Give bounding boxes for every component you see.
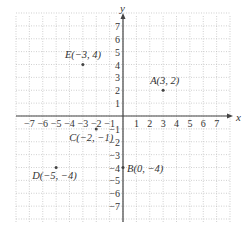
x-axis-label: x xyxy=(235,111,241,123)
y-tick-label: 3 xyxy=(115,72,120,83)
y-tick-label: 4 xyxy=(115,60,120,71)
y-tick-label: 1 xyxy=(115,98,120,109)
point-label-C: C(−2, −1) xyxy=(69,132,113,144)
x-tick-label: −2 xyxy=(91,118,102,129)
x-tick-label: −5 xyxy=(51,118,62,129)
y-tick-label: −6 xyxy=(109,188,120,199)
point-marker-C xyxy=(95,127,98,130)
x-tick-label: 5 xyxy=(187,118,192,129)
x-tick-label: 1 xyxy=(134,118,139,129)
x-tick-label: −3 xyxy=(78,118,89,129)
y-tick-label: 6 xyxy=(115,34,120,45)
x-tick-label: −7 xyxy=(24,118,35,129)
y-tick-label: −3 xyxy=(109,150,120,161)
y-tick-label: −4 xyxy=(109,163,120,174)
point-marker-A xyxy=(162,89,165,92)
y-tick-label: −5 xyxy=(109,175,120,186)
point-marker-B xyxy=(122,166,125,169)
point-label-D: D(−5, −4) xyxy=(31,170,77,182)
x-tick-label: 3 xyxy=(161,118,166,129)
y-tick-label: 5 xyxy=(115,47,120,58)
point-marker-E xyxy=(81,63,84,66)
point-label-E: E(−3, 4) xyxy=(64,49,102,61)
y-tick-label: 7 xyxy=(115,21,120,32)
points: A(3, 2)B(0, −4)C(−2, −1)D(−5, −4)E(−3, 4… xyxy=(31,49,180,182)
x-tick-label: 7 xyxy=(214,118,219,129)
x-tick-label: 2 xyxy=(147,118,152,129)
x-tick-label: −4 xyxy=(64,118,75,129)
y-axis-label: y xyxy=(119,2,125,14)
y-tick-label: 2 xyxy=(115,85,120,96)
x-tick-label: −6 xyxy=(37,118,48,129)
x-tick-label: 4 xyxy=(174,118,179,129)
coordinate-plane: −7−6−5−4−3−2−112345677654321−1−2−3−4−5−6… xyxy=(0,0,246,232)
y-tick-label: −7 xyxy=(109,201,120,212)
x-tick-label: 6 xyxy=(201,118,206,129)
point-label-B: B(0, −4) xyxy=(127,163,164,175)
point-label-A: A(3, 2) xyxy=(149,75,180,87)
